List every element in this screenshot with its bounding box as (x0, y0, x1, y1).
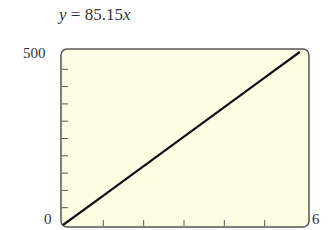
plot-area (0, 0, 329, 230)
